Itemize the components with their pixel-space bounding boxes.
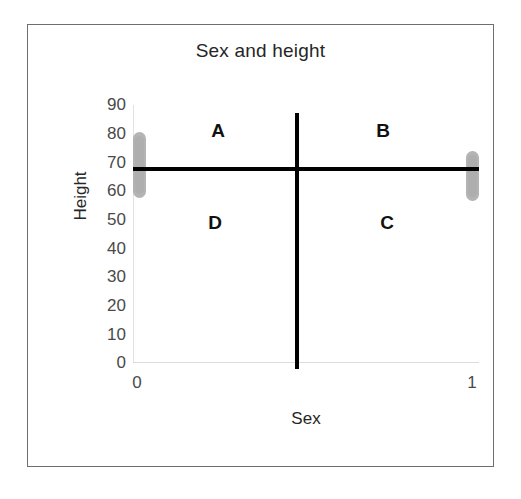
- horizontal-reference-line: [133, 167, 479, 171]
- x-tick-1: 1: [452, 374, 492, 391]
- y-axis-title: Height: [71, 146, 91, 246]
- y-tick-80: 80: [80, 125, 126, 142]
- x-tick-0: 0: [117, 374, 157, 391]
- quadrant-label-c: C: [372, 213, 402, 232]
- quadrant-label-d: D: [200, 213, 230, 232]
- data-cluster-sex-1: [466, 151, 479, 201]
- x-axis-title: Sex: [133, 409, 479, 429]
- y-axis-tick-labels: 90 80 70 60 50 40 30 20 10 0: [78, 0, 126, 499]
- quadrant-label-a: A: [203, 121, 233, 140]
- y-tick-90: 90: [80, 96, 126, 113]
- y-tick-30: 30: [80, 268, 126, 285]
- y-tick-0: 0: [80, 354, 126, 371]
- y-tick-20: 20: [80, 297, 126, 314]
- quadrant-label-b: B: [368, 121, 398, 140]
- y-tick-10: 10: [80, 326, 126, 343]
- x-axis-line: [133, 362, 479, 363]
- vertical-reference-line: [295, 113, 299, 369]
- chart-figure: Sex and height 90 80 70 60 50 40 30 20 1…: [0, 0, 521, 499]
- data-cluster-sex-0: [133, 132, 146, 198]
